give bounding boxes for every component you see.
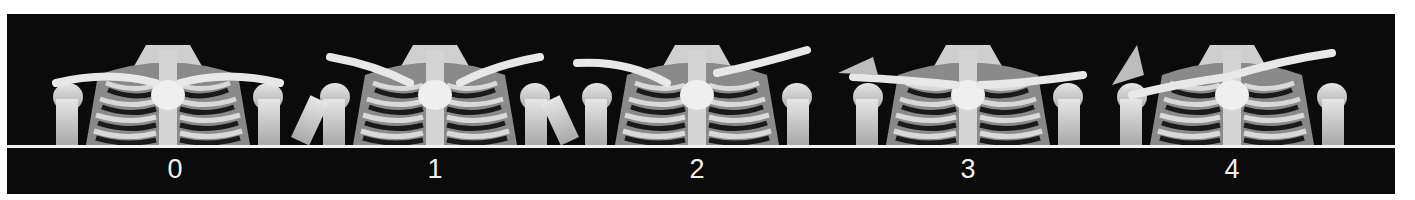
grade-label-3: 3 (938, 154, 998, 184)
rendering-4 (1112, 45, 1347, 145)
grade-label-1: 1 (405, 154, 465, 184)
rendering-2 (577, 45, 812, 145)
grade-label-0: 0 (145, 154, 205, 184)
rendering-1 (291, 45, 579, 145)
rendering-0 (53, 45, 283, 145)
figure-panel: 0 1 2 3 4 (7, 14, 1395, 194)
grade-label-2: 2 (667, 154, 727, 184)
rendering-3 (838, 45, 1083, 145)
images-row (7, 14, 1395, 145)
skeleton-renderings (7, 14, 1395, 145)
grade-label-4: 4 (1202, 154, 1262, 184)
labels-row: 0 1 2 3 4 (7, 148, 1395, 194)
